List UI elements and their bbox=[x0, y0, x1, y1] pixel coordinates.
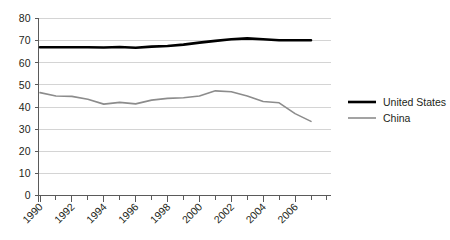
y-tick-label: 30 bbox=[19, 123, 31, 135]
x-tick-labels: 199019921994199619982000200220042006 bbox=[20, 200, 300, 225]
x-tick-label: 2002 bbox=[211, 200, 236, 225]
x-tick-label: 2004 bbox=[243, 200, 268, 225]
x-tick-label: 1992 bbox=[52, 200, 77, 225]
y-tick-label: 10 bbox=[19, 167, 31, 179]
data-series bbox=[40, 38, 311, 121]
x-tick-label: 1998 bbox=[147, 200, 172, 225]
y-tick-label: 70 bbox=[19, 34, 31, 46]
chart-legend: United StatesChina bbox=[348, 96, 446, 124]
y-tick-label: 0 bbox=[25, 189, 31, 201]
y-tick-labels: 01020304050607080 bbox=[19, 12, 31, 201]
x-tick-label: 1990 bbox=[20, 200, 45, 225]
legend-label-china: China bbox=[383, 112, 411, 124]
series-line-china bbox=[40, 91, 311, 122]
legend-label-united-states: United States bbox=[383, 96, 446, 108]
x-tick-label: 1994 bbox=[84, 200, 109, 225]
y-tick-label: 80 bbox=[19, 12, 31, 24]
y-tick-label: 40 bbox=[19, 101, 31, 113]
x-tick-label: 1996 bbox=[116, 200, 141, 225]
x-tick-label: 2006 bbox=[275, 200, 300, 225]
line-chart: 01020304050607080 1990199219941996199820… bbox=[0, 0, 450, 240]
y-tick-label: 60 bbox=[19, 57, 31, 69]
y-axis bbox=[35, 19, 39, 202]
x-axis bbox=[39, 196, 331, 202]
y-tick-label: 20 bbox=[19, 145, 31, 157]
y-tick-label: 50 bbox=[19, 79, 31, 91]
chart-container: 01020304050607080 1990199219941996199820… bbox=[0, 0, 450, 240]
series-line-united-states bbox=[40, 38, 311, 47]
x-tick-label: 2000 bbox=[179, 200, 204, 225]
